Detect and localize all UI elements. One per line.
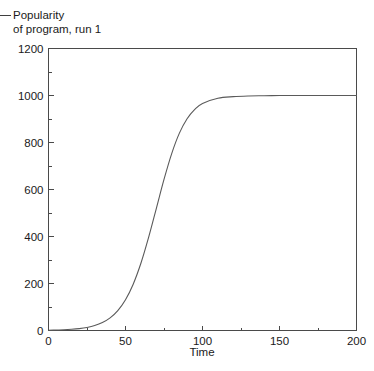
x-axis-ticks bbox=[49, 326, 357, 331]
y-tick-label: 200 bbox=[24, 278, 43, 290]
x-tick-label: 100 bbox=[193, 335, 212, 347]
chart-figure: Popularity of program, run 1 02004006008… bbox=[0, 0, 374, 371]
y-tick-label: 400 bbox=[24, 231, 43, 243]
x-tick-label: 50 bbox=[119, 335, 132, 347]
x-tick-label: 150 bbox=[270, 335, 289, 347]
legend-entry-row-1: Popularity bbox=[0, 9, 200, 23]
y-tick-label: 600 bbox=[24, 184, 43, 196]
legend-label-line-1: Popularity bbox=[13, 9, 64, 23]
chart-legend: Popularity of program, run 1 bbox=[0, 9, 200, 37]
data-series-line bbox=[49, 95, 357, 330]
x-axis-tick-labels: 050100150200 bbox=[45, 335, 366, 347]
y-axis-tick-labels: 020040060080010001200 bbox=[18, 43, 44, 337]
axis-frame bbox=[49, 49, 357, 331]
x-tick-label: 0 bbox=[45, 335, 51, 347]
plot-area: 020040060080010001200 050100150200 Time bbox=[0, 0, 374, 371]
y-tick-label: 800 bbox=[24, 137, 43, 149]
data-series-group bbox=[49, 95, 357, 330]
line-marker-icon bbox=[0, 15, 11, 16]
x-axis-title: Time bbox=[189, 346, 214, 358]
legend-label-line-2: of program, run 1 bbox=[13, 23, 200, 37]
y-tick-label: 1200 bbox=[18, 43, 44, 55]
y-tick-label: 0 bbox=[37, 325, 43, 337]
y-tick-label: 1000 bbox=[18, 90, 44, 102]
x-tick-label: 200 bbox=[347, 335, 366, 347]
y-axis-ticks bbox=[49, 49, 54, 331]
